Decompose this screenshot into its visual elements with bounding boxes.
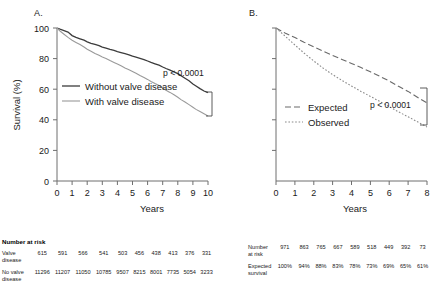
risk-b-r0-c0: 971: [274, 244, 296, 258]
risk-b-r0-c7: 392: [397, 244, 414, 258]
panel-b-xtick-6: 6: [387, 188, 392, 198]
risk-a-row1-label-line1: No valve: [2, 269, 32, 276]
risk-b-r0-c6: 449: [380, 244, 397, 258]
panel-a-xtick-8: 8: [175, 188, 180, 198]
legend-label-with-valve-disease: With valve disease: [85, 96, 164, 107]
panel-a-xtick-3: 3: [100, 188, 105, 198]
risk-a-r1-c1: 11207: [52, 269, 72, 283]
risk-a-row0-label: Valve disease: [2, 250, 32, 264]
risk-a-r0-c3: 541: [93, 250, 114, 264]
risk-a-r1-c0: 11296: [32, 269, 52, 283]
risk-b-r1-c0: 100%: [274, 263, 296, 277]
panel-b-x-ticks: [276, 181, 427, 185]
risk-b-r1-c6: 69%: [380, 263, 397, 277]
panel-a-y-axis-title: Survival (%): [11, 79, 22, 130]
risk-a-row1-label-line2: disease: [2, 276, 32, 283]
risk-b-r1-c5: 73%: [363, 263, 380, 277]
risk-a-r0-c4: 503: [114, 250, 131, 264]
risk-a-r0-c7: 413: [165, 250, 182, 264]
panel-a-y-ticks: [53, 28, 57, 181]
risk-a-r0-c2: 566: [73, 250, 93, 264]
panel-a-x-axis-title: Years: [140, 203, 164, 214]
panel-a-ytick-5: 0: [44, 177, 49, 187]
risk-b-row0-label: Number at risk: [248, 244, 274, 258]
panel-a-xtick-5: 5: [130, 188, 135, 198]
risk-a-r1-c6: 8001: [148, 269, 165, 283]
risk-b-r0-c4: 589: [346, 244, 363, 258]
risk-b-row0-label-line1: Number: [248, 244, 274, 251]
panel-a-xtick-1: 1: [70, 188, 75, 198]
panel-a-x-ticks: [57, 181, 208, 185]
panel-b-legend: Expected Observed: [285, 102, 349, 128]
risk-a-row0-label-line1: Valve: [2, 250, 32, 257]
risk-b-row1-label: Expected survival: [248, 263, 274, 277]
panel-b-y-ticks: [272, 28, 276, 150]
panel-b-xtick-7: 7: [406, 188, 411, 198]
panel-a-ytick-2: 60: [39, 85, 49, 95]
risk-a-r0-c9: 331: [198, 250, 215, 264]
risk-a-r0-c8: 376: [181, 250, 198, 264]
panel-a-ytick-0: 100: [34, 24, 49, 34]
curve-observed: [276, 28, 427, 127]
panel-a-pvalue-bracket: [206, 92, 212, 116]
panel-b-plot: 0 1 2 3 4 5 6 7 8 Years p < 0.0001 Expec…: [215, 0, 431, 250]
panel-a-legend: Without valve disease With valve disease: [62, 81, 177, 107]
legend-label-expected: Expected: [308, 102, 348, 113]
risk-a-row1-label: No valve disease: [2, 269, 32, 283]
risk-b-row1-label-line1: Expected: [248, 263, 274, 270]
panel-a-xtick-2: 2: [85, 188, 90, 198]
panel-b-pvalue-label: p < 0.0001: [370, 100, 411, 110]
panel-a-pvalue-label: p < 0.0001: [163, 68, 204, 78]
panel-a: A.: [0, 0, 215, 250]
risk-b-row0-label-line2: at risk: [248, 251, 274, 258]
panel-a-xtick-6: 6: [145, 188, 150, 198]
risk-a-r1-c4: 9507: [114, 269, 131, 283]
risk-a-r0-c5: 456: [131, 250, 148, 264]
curve-expected: [276, 28, 427, 103]
risk-a-r1-c8: 5054: [181, 269, 198, 283]
panel-b-xtick-3: 3: [330, 188, 335, 198]
risk-b-r1-c7: 65%: [397, 263, 414, 277]
panel-b-xtick-1: 1: [292, 188, 297, 198]
panel-a-xtick-9: 9: [190, 188, 195, 198]
risk-b-r1-c3: 83%: [329, 263, 346, 277]
risk-a-r1-c2: 11050: [73, 269, 93, 283]
risk-b-r1-c4: 78%: [346, 263, 363, 277]
risk-b-r0-c3: 667: [329, 244, 346, 258]
survival-figure: A.: [0, 0, 431, 298]
table-row: Expected survival 100% 94% 88% 83% 78% 7…: [248, 263, 431, 277]
panel-b: B.: [215, 0, 431, 250]
risk-b-r0-c8: 73: [414, 244, 431, 258]
risk-b-row1-label-line2: survival: [248, 270, 274, 277]
panel-a-ytick-1: 80: [39, 54, 49, 64]
risk-a-r0-c6: 438: [148, 250, 165, 264]
risk-table-panel-b: Number at risk 971 863 765 667 589 518 4…: [248, 244, 431, 298]
panel-a-xtick-10: 10: [203, 188, 213, 198]
risk-b-r0-c2: 765: [313, 244, 330, 258]
risk-a-r1-c9: 3233: [198, 269, 215, 283]
panel-b-xtick-4: 4: [349, 188, 354, 198]
risk-a-r0-c1: 591: [52, 250, 72, 264]
panel-b-pvalue-bracket: [420, 88, 427, 125]
table-row: No valve disease 11296 11207 11050 10785…: [2, 269, 215, 283]
risk-b-r1-c2: 88%: [313, 263, 330, 277]
panel-a-xtick-4: 4: [115, 188, 120, 198]
panel-b-xtick-0: 0: [273, 188, 278, 198]
table-row: Valve disease 615 591 566 541 503 456 43…: [2, 250, 215, 264]
risk-a-r1-c7: 7735: [165, 269, 182, 283]
panel-a-xtick-0: 0: [54, 188, 59, 198]
panel-b-xtick-2: 2: [311, 188, 316, 198]
panel-a-plot: 100 80 60 40 20 0 0 1 2 3 4 5 6 7 8 9 10…: [0, 0, 215, 250]
risk-a-r1-c5: 8215: [131, 269, 148, 283]
risk-a-row0-label-line2: disease: [2, 257, 32, 264]
risk-table-panel-a: Number at risk Valve disease 615 591 566…: [2, 238, 215, 298]
panel-b-x-axis-title: Years: [343, 203, 367, 214]
panel-a-xtick-7: 7: [160, 188, 165, 198]
risk-b-r0-c1: 863: [296, 244, 313, 258]
panel-a-ytick-3: 40: [39, 115, 49, 125]
panel-a-ytick-4: 20: [39, 146, 49, 156]
panel-b-xtick-8: 8: [424, 188, 429, 198]
panel-b-xtick-5: 5: [368, 188, 373, 198]
legend-label-observed: Observed: [308, 117, 349, 128]
risk-table-a-title: Number at risk: [2, 238, 215, 246]
